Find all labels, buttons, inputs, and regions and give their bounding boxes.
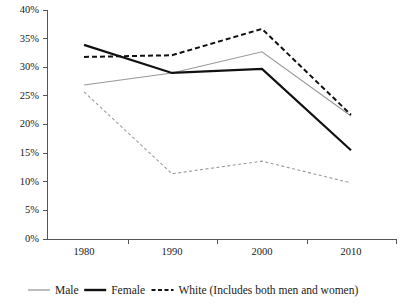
y-tick-label: 35% bbox=[20, 33, 40, 44]
y-tick-label: 0% bbox=[25, 233, 39, 244]
x-axis: 1980199020002010 bbox=[47, 239, 396, 257]
y-tick-label: 40% bbox=[20, 4, 40, 15]
x-tick-label: 1980 bbox=[74, 246, 95, 257]
chart-canvas: 0%5%10%15%20%25%30%35%40% 19801990200020… bbox=[0, 0, 402, 306]
series-line-female bbox=[84, 45, 351, 150]
y-tick-label: 10% bbox=[20, 176, 40, 187]
y-tick-label: 20% bbox=[20, 118, 40, 129]
x-tick-label: 1990 bbox=[162, 246, 183, 257]
y-axis: 0%5%10%15%20%25%30%35%40% bbox=[20, 4, 47, 244]
y-tick-label: 15% bbox=[20, 147, 40, 158]
line-chart: 0%5%10%15%20%25%30%35%40% 19801990200020… bbox=[0, 0, 402, 306]
x-tick-label: 2000 bbox=[252, 246, 273, 257]
y-tick-label: 25% bbox=[20, 90, 40, 101]
legend-label: White (Includes both men and women) bbox=[179, 284, 359, 297]
y-tick-label: 5% bbox=[25, 204, 39, 215]
series-lines bbox=[84, 29, 351, 183]
x-tick-label: 2010 bbox=[341, 246, 362, 257]
series-line-unlabeled-3 bbox=[84, 92, 351, 183]
series-line-male bbox=[84, 52, 351, 116]
legend-label: Female bbox=[111, 284, 145, 296]
legend-label: Male bbox=[55, 284, 79, 296]
chart-legend: MaleFemaleWhite (Includes both men and w… bbox=[28, 284, 358, 297]
y-tick-label: 30% bbox=[20, 61, 40, 72]
